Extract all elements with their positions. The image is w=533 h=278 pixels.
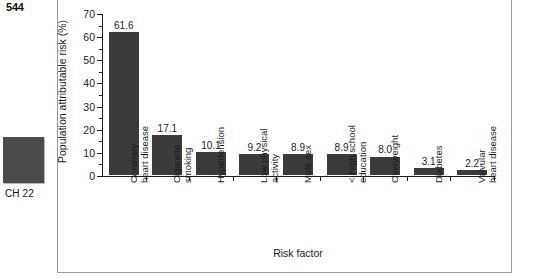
- y-axis-minor-tick: [99, 164, 102, 165]
- y-axis-minor-tick: [99, 49, 102, 50]
- x-axis-tick: [320, 177, 321, 181]
- y-axis-tick: [97, 14, 102, 15]
- y-axis-tick-label: 50: [83, 55, 95, 66]
- y-axis-tick-label: 60: [83, 32, 95, 43]
- chapter-tab-marker: [3, 137, 44, 183]
- page-number: 544: [6, 1, 24, 13]
- y-axis-line: [102, 14, 103, 177]
- x-axis-category-label: Cigarette smoking: [172, 97, 193, 183]
- y-axis-tick: [97, 176, 102, 177]
- y-axis-minor-tick: [99, 95, 102, 96]
- y-axis-tick-label: 30: [83, 101, 95, 112]
- x-axis-category-label: Low physical activity: [259, 97, 280, 183]
- y-axis-tick: [97, 153, 102, 154]
- bar-value-label: 61.6: [104, 21, 144, 31]
- y-axis-minor-tick: [99, 141, 102, 142]
- y-axis-tick-label: 0: [89, 171, 95, 182]
- y-axis-tick: [97, 107, 102, 108]
- y-axis-tick-label: 70: [83, 9, 95, 20]
- x-axis-category-label: Hypertension: [216, 97, 227, 183]
- x-axis-tick: [407, 177, 408, 181]
- y-axis-title: Population attributable risk (%): [56, 20, 68, 163]
- y-axis-tick: [97, 130, 102, 131]
- x-axis-tick: [450, 177, 451, 181]
- y-axis-tick: [97, 60, 102, 61]
- y-axis-tick-label: 40: [83, 78, 95, 89]
- y-axis-tick-label: 20: [83, 124, 95, 135]
- x-axis-tick: [233, 177, 234, 181]
- y-axis-minor-tick: [99, 118, 102, 119]
- x-axis-title: Risk factor: [102, 247, 494, 259]
- y-axis-tick: [97, 37, 102, 38]
- y-axis-minor-tick: [99, 72, 102, 73]
- plot-area: 010203040506070 61.617.110.19.28.98.98.0…: [102, 14, 494, 176]
- y-axis-tick-label: 10: [83, 148, 95, 159]
- x-axis-category-label: Coronary heart disease: [129, 97, 150, 183]
- figure-panel: Population attributable risk (%) 0102030…: [57, 0, 512, 273]
- y-axis-tick: [97, 83, 102, 84]
- x-axis-category-label: Overweight: [390, 97, 401, 183]
- chapter-label: CH 22: [5, 188, 34, 199]
- x-axis-category-label: < High school education: [347, 97, 368, 183]
- y-axis-minor-tick: [99, 26, 102, 27]
- x-axis-category-label: Male sex: [303, 97, 314, 183]
- x-axis-category-label: Diabetes: [434, 97, 445, 183]
- x-axis-category-label: Valvular heart disease: [477, 97, 498, 183]
